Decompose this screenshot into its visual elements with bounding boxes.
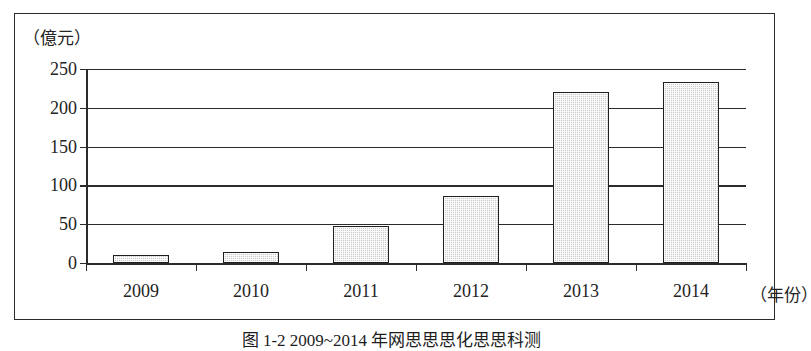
y-tick-label: 50 [59, 214, 77, 235]
x-axis-title: （年份） [750, 281, 811, 306]
x-category-label: 2010 [233, 281, 269, 302]
bar-2014 [663, 82, 719, 263]
bar-2011 [333, 226, 389, 263]
x-tick-mark [416, 263, 417, 271]
x-tick-mark [86, 263, 87, 271]
gridline [86, 108, 746, 109]
y-tick-label: 200 [50, 97, 77, 118]
y-tick-mark [80, 224, 87, 225]
y-tick-mark [80, 185, 87, 186]
x-category-label: 2011 [343, 281, 378, 302]
x-category-label: 2009 [123, 281, 159, 302]
x-tick-mark [636, 263, 637, 271]
bar-2009 [113, 255, 169, 263]
x-category-label: 2014 [673, 281, 709, 302]
y-tick-mark [80, 69, 87, 70]
x-tick-mark [746, 263, 747, 271]
gridline [86, 224, 746, 225]
bar-2010 [223, 252, 279, 263]
y-axis-line [86, 69, 88, 263]
y-tick-mark [80, 108, 87, 109]
x-category-label: 2013 [563, 281, 599, 302]
bar-2013 [553, 92, 609, 263]
y-tick-label: 0 [68, 253, 77, 274]
y-tick-label: 150 [50, 136, 77, 157]
figure-frame: （億元） 050100150200250 2009201020112012201… [14, 13, 775, 320]
gridline [86, 147, 746, 148]
gridline [86, 185, 746, 186]
x-tick-mark [196, 263, 197, 271]
y-axis-unit-label: （億元） [23, 24, 91, 49]
plot-area: 050100150200250 200920102011201220132014… [86, 69, 746, 263]
x-tick-mark [526, 263, 527, 271]
y-tick-label: 100 [50, 175, 77, 196]
y-tick-mark [80, 147, 87, 148]
x-category-label: 2012 [453, 281, 489, 302]
bar-2012 [443, 196, 499, 264]
y-tick-label: 250 [50, 59, 77, 80]
figure-caption: 图 1-2 2009~2014 年网思思思化思思科测 [0, 326, 783, 351]
x-tick-mark [306, 263, 307, 271]
gridline [86, 69, 746, 70]
